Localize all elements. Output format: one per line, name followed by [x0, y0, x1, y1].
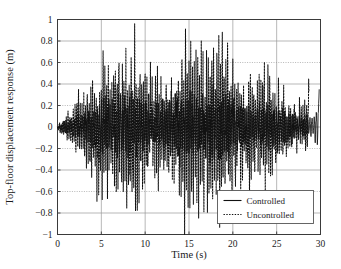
x-tick-label: 25	[272, 239, 282, 249]
x-axis-title: Time (s)	[171, 249, 207, 261]
y-tick-label: 0.2	[41, 101, 53, 111]
y-tick-label: −0.6	[35, 187, 52, 197]
y-tick-label: 0.4	[41, 79, 53, 89]
y-tick-label: 0	[48, 122, 53, 132]
legend-label-uncontrolled: Uncontrolled	[247, 210, 295, 220]
x-tick-label: 20	[228, 239, 238, 249]
y-tick-label: −0.4	[35, 165, 52, 175]
y-tick-label: 0.8	[41, 36, 53, 46]
y-tick-label: −0.8	[35, 208, 52, 218]
y-tick-label: 1	[48, 15, 53, 25]
displacement-response-chart: −1−0.8−0.6−0.4−0.200.20.40.60.8105101520…	[0, 0, 341, 269]
legend-label-controlled: Controlled	[247, 196, 286, 206]
x-tick-label: 30	[316, 239, 326, 249]
x-tick-label: 15	[184, 239, 194, 249]
figure-container: −1−0.8−0.6−0.4−0.200.20.40.60.8105101520…	[0, 0, 341, 269]
x-tick-label: 5	[99, 239, 104, 249]
chart-legend[interactable]: ControlledUncontrolled	[218, 191, 314, 224]
x-tick-label: 0	[55, 239, 60, 249]
y-axis-title: Top-floor displacement response (m)	[4, 49, 16, 205]
y-tick-label: 0.6	[41, 58, 53, 68]
x-tick-label: 10	[140, 239, 150, 249]
y-tick-label: −0.2	[35, 144, 52, 154]
y-tick-label: −1	[42, 230, 52, 240]
